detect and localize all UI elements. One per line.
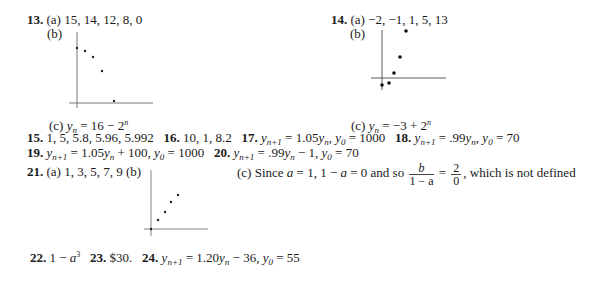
scatter-plots xyxy=(0,0,602,287)
plot-21 xyxy=(144,170,208,236)
plot-14 xyxy=(371,29,446,90)
plot-13 xyxy=(69,32,153,108)
